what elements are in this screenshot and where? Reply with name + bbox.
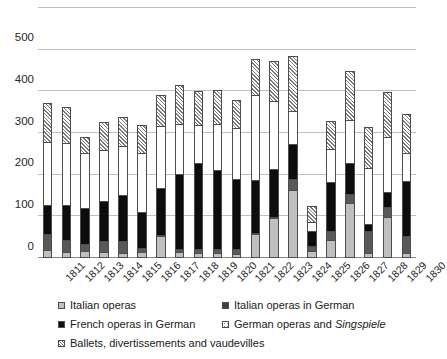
bar-segment xyxy=(327,122,335,151)
y-axis-tick-label: 300 xyxy=(15,116,34,128)
bar-segment xyxy=(157,127,165,189)
bar-segment xyxy=(384,218,392,257)
stacked-bar[interactable] xyxy=(307,206,317,258)
bar-segment xyxy=(233,129,241,180)
bar-segment xyxy=(119,242,127,254)
bar-segment xyxy=(81,154,89,209)
bar-segment xyxy=(327,232,335,241)
bar-segment xyxy=(157,189,165,236)
y-axis-tick-label: 200 xyxy=(15,157,34,169)
legend-item-label: French operas in German xyxy=(70,318,195,330)
bar-segment xyxy=(252,235,260,257)
legend-swatch-icon xyxy=(58,321,65,328)
y-axis-tick-label: 0 xyxy=(28,241,34,253)
bar-segment xyxy=(214,91,222,126)
bar-segment xyxy=(44,143,52,206)
y-axis-tick-label: 100 xyxy=(15,199,34,211)
bar-segment xyxy=(403,254,411,257)
bar-segment xyxy=(100,202,108,242)
bar-segment xyxy=(327,150,335,183)
stacked-bar[interactable] xyxy=(251,59,261,258)
legend-item[interactable]: Italian operas xyxy=(58,299,136,311)
bar-segment xyxy=(233,180,241,251)
bar-segment xyxy=(289,191,297,257)
bar-segment xyxy=(63,108,71,144)
bar-segment xyxy=(214,171,222,251)
bar-segment xyxy=(81,252,89,257)
bar-segment xyxy=(403,182,411,237)
stacked-bar[interactable] xyxy=(232,100,242,258)
legend-item[interactable]: Ballets, divertissements and vaudevilles xyxy=(58,337,264,349)
bar-segment xyxy=(252,60,260,96)
bar-segment xyxy=(100,123,108,151)
stacked-bar[interactable] xyxy=(288,56,298,258)
stacked-bar[interactable] xyxy=(118,117,128,258)
x-axis-tick-label: 1818 xyxy=(196,259,221,284)
stacked-bar[interactable] xyxy=(269,61,279,258)
bar-segment xyxy=(81,138,89,154)
legend-item-label: Italian operas in German xyxy=(234,299,354,311)
bar-segment xyxy=(289,57,297,111)
legend-swatch-icon xyxy=(58,340,65,347)
legend-item[interactable]: German operas and Singspiele xyxy=(222,318,386,330)
bar-segment xyxy=(270,62,278,102)
bar-segment xyxy=(63,253,71,257)
y-axis-tick-label: 600 xyxy=(15,0,34,2)
bar-series-container xyxy=(38,8,416,258)
bar-segment xyxy=(233,255,241,257)
stacked-bar[interactable] xyxy=(175,85,185,258)
legend-item-label: German operas and Singspiele xyxy=(234,318,386,330)
stacked-bar[interactable] xyxy=(345,71,355,258)
stacked-bar[interactable] xyxy=(62,107,72,258)
x-axis-tick-label: 1829 xyxy=(403,259,428,284)
stacked-bar[interactable] xyxy=(99,122,109,258)
legend-swatch-icon xyxy=(58,302,65,309)
legend-item[interactable]: French operas in German xyxy=(58,318,195,330)
stacked-bar[interactable] xyxy=(326,121,336,259)
stacked-bar[interactable] xyxy=(364,127,374,258)
bar-segment xyxy=(327,241,335,257)
bar-segment xyxy=(195,92,203,126)
bar-segment xyxy=(403,237,411,253)
bar-segment xyxy=(176,125,184,174)
bar-segment xyxy=(252,181,260,234)
bar-segment xyxy=(403,115,411,154)
bar-segment xyxy=(346,121,354,164)
bar-segment xyxy=(289,112,297,145)
stacked-bar[interactable] xyxy=(137,125,147,258)
bar-segment xyxy=(100,242,108,253)
bar-segment xyxy=(270,102,278,170)
bar-segment xyxy=(119,254,127,257)
bar-segment xyxy=(365,232,373,254)
bar-segment xyxy=(195,126,203,164)
stacked-bar[interactable] xyxy=(383,92,393,258)
bar-segment xyxy=(44,104,52,143)
legend-item-label: Ballets, divertissements and vaudevilles xyxy=(70,337,264,349)
bar-segment xyxy=(365,169,373,225)
stacked-bar[interactable] xyxy=(194,91,204,258)
x-axis-tick-label: 1830 xyxy=(422,259,447,284)
bar-segment xyxy=(195,164,203,249)
bar-segment xyxy=(157,96,165,128)
bar-segment xyxy=(138,126,146,154)
bar-segment xyxy=(138,213,146,249)
x-axis-tick-label: 1828 xyxy=(385,259,410,284)
stacked-bar[interactable] xyxy=(43,103,53,258)
stacked-bar[interactable] xyxy=(213,90,223,258)
bar-segment xyxy=(346,204,354,257)
bar-segment xyxy=(63,206,71,241)
bar-segment xyxy=(81,209,89,245)
stacked-bar[interactable] xyxy=(402,114,412,258)
bar-segment xyxy=(44,235,52,251)
legend-item[interactable]: Italian operas in German xyxy=(222,299,354,311)
bar-segment xyxy=(63,144,71,206)
stacked-bar[interactable] xyxy=(80,137,90,258)
stacked-bar[interactable] xyxy=(156,95,166,258)
plot-area xyxy=(38,8,416,258)
bar-segment xyxy=(195,254,203,257)
legend-item-label: Italian operas xyxy=(70,299,136,311)
bar-segment xyxy=(270,170,278,218)
bar-segment xyxy=(100,253,108,257)
bar-segment xyxy=(289,180,297,191)
bar-segment xyxy=(365,128,373,169)
